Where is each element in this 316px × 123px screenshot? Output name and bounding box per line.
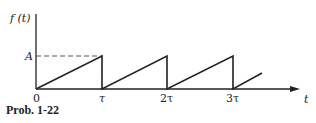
x-tick-2tau: 2τ: [160, 92, 173, 105]
sawtooth-waveform: [36, 56, 262, 89]
x-axis-arrow-icon: [290, 86, 300, 92]
y-axis-label: f (t): [9, 12, 31, 25]
amplitude-label: A: [24, 50, 33, 63]
x-axis-label: t: [304, 93, 309, 106]
x-tick-3tau: 3τ: [226, 92, 239, 105]
x-tick-tau: τ: [99, 92, 106, 105]
figure-caption: Prob. 1-22: [6, 103, 59, 118]
